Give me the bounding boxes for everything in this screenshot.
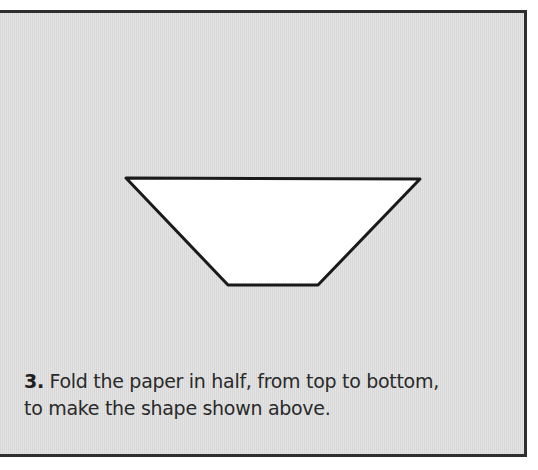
- folded-paper-shape: [126, 178, 420, 285]
- instruction-line-1: Fold the paper in half, from top to bott…: [50, 370, 439, 392]
- instruction-line-2: to make the shape shown above.: [24, 397, 330, 419]
- step-number: 3.: [24, 370, 44, 392]
- instruction-caption: 3. Fold the paper in half, from top to b…: [24, 368, 504, 422]
